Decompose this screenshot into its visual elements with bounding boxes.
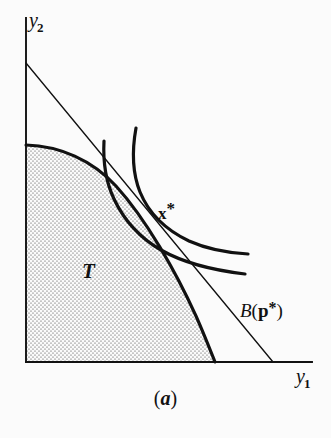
budget-label-close: ) [277, 300, 283, 321]
budget-label-p: p [258, 300, 269, 321]
y-axis-label-subscript: 2 [37, 21, 44, 34]
caption-close: ) [171, 387, 178, 409]
optimum-label-base: x [158, 204, 167, 223]
optimum-label-star: * [167, 200, 176, 217]
x-axis-label: y1 [296, 366, 310, 390]
y-axis-label: y2 [29, 10, 43, 34]
production-set-label: T [82, 261, 95, 282]
figure-caption: (a) [0, 388, 331, 408]
caption-letter: a [161, 387, 171, 409]
optimum-point-label: x* [158, 200, 175, 222]
caption-open: ( [154, 387, 161, 409]
budget-line-label: B(p*) [240, 300, 283, 320]
figure-container: y2 y1 T x* B(p*) (a) [0, 0, 331, 438]
budget-label-b: B [240, 300, 252, 321]
budget-label-star: * [269, 300, 277, 316]
